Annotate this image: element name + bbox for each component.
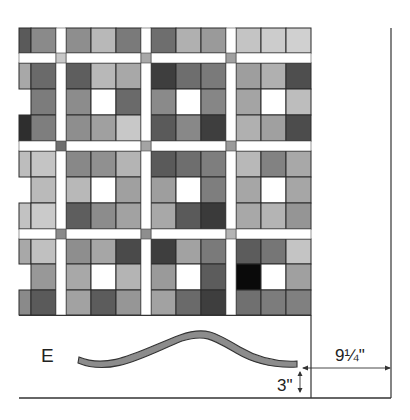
quilt-patch: [66, 203, 91, 229]
quilt-patch: [176, 115, 201, 141]
quilt-patch: [261, 177, 286, 203]
quilt-patch: [66, 63, 91, 89]
quilt-patch: [91, 203, 116, 229]
height-dimension-label: 3": [277, 376, 293, 395]
quilt-patch: [19, 290, 31, 315]
quilt-patch: [116, 28, 141, 53]
quilt-patch: [91, 28, 116, 53]
width-dimension-label: 9¼": [335, 346, 365, 365]
quilt-patch: [261, 151, 286, 177]
quilt-patch: [236, 239, 261, 264]
quilt-patch: [31, 177, 56, 203]
quilt-blocks: [19, 28, 311, 315]
cornerstone: [141, 141, 151, 151]
quilt-patch: [261, 89, 286, 115]
quilt-patch: [176, 264, 201, 290]
quilt-patch: [116, 264, 141, 290]
cornerstone: [226, 141, 236, 151]
quilt-patch: [261, 290, 286, 315]
quilt-patch: [236, 151, 261, 177]
quilt-patch: [261, 203, 286, 229]
quilt-patch: [31, 264, 56, 290]
quilt-patch: [261, 264, 286, 290]
quilt-patch: [151, 63, 176, 89]
quilt-patch: [66, 28, 91, 53]
quilt-patch: [116, 177, 141, 203]
quilt-patch: [151, 151, 176, 177]
quilt-patch: [91, 290, 116, 315]
quilt-patch: [31, 28, 56, 53]
quilt-patch: [201, 203, 226, 229]
quilt-patch: [236, 28, 261, 53]
quilt-patch: [91, 239, 116, 264]
wave-vine-shape: [78, 331, 297, 368]
quilt-patch: [31, 203, 56, 229]
quilt-patch: [31, 290, 56, 315]
cornerstone: [141, 229, 151, 239]
piece-label: E: [41, 345, 54, 366]
quilt-patch: [31, 239, 56, 264]
quilt-patch: [176, 177, 201, 203]
quilt-patch: [286, 203, 311, 229]
cornerstone: [226, 53, 236, 63]
quilt-patch: [176, 89, 201, 115]
quilt-patch: [201, 63, 226, 89]
quilt-patch: [66, 264, 91, 290]
quilt-patch: [201, 28, 226, 53]
quilt-patch: [236, 63, 261, 89]
quilt-patch: [66, 290, 91, 315]
quilt-patch: [91, 115, 116, 141]
quilt-patch: [286, 28, 311, 53]
quilt-patch: [66, 177, 91, 203]
quilt-patch: [176, 203, 201, 229]
quilt-patch: [176, 151, 201, 177]
quilt-patch: [91, 89, 116, 115]
quilt-patch: [116, 203, 141, 229]
quilt-patch: [236, 115, 261, 141]
cornerstone: [141, 53, 151, 63]
quilt-patch: [286, 115, 311, 141]
quilt-patch: [151, 290, 176, 315]
quilt-patch: [201, 151, 226, 177]
quilt-patch: [176, 63, 201, 89]
quilt-patch: [19, 28, 31, 53]
width-dimension-arrow: [302, 366, 391, 371]
quilt-patch: [286, 290, 311, 315]
quilt-patch: [261, 239, 286, 264]
quilt-patch: [151, 115, 176, 141]
quilt-patch: [151, 177, 176, 203]
quilt-patch: [66, 115, 91, 141]
sashing-strip: [141, 28, 151, 315]
quilt-patch: [116, 151, 141, 177]
quilt-patch: [91, 177, 116, 203]
quilt-patch: [176, 290, 201, 315]
quilt-patch: [236, 177, 261, 203]
quilt-diagram: E 9¼" 3": [0, 0, 410, 420]
quilt-patch: [116, 290, 141, 315]
quilt-patch: [116, 89, 141, 115]
quilt-patch: [31, 115, 56, 141]
quilt-patch: [286, 177, 311, 203]
quilt-patch: [91, 151, 116, 177]
quilt-patch: [151, 264, 176, 290]
quilt-patch: [201, 89, 226, 115]
cornerstone: [56, 229, 66, 239]
quilt-patch: [201, 239, 226, 264]
quilt-patch: [91, 63, 116, 89]
quilt-patch: [261, 28, 286, 53]
quilt-patch: [116, 63, 141, 89]
quilt-patch: [116, 115, 141, 141]
quilt-patch: [286, 63, 311, 89]
quilt-patch: [116, 239, 141, 264]
quilt-patch: [31, 89, 56, 115]
quilt-patch: [236, 264, 261, 290]
quilt-patch: [286, 151, 311, 177]
quilt-patch: [151, 89, 176, 115]
quilt-patch: [201, 177, 226, 203]
quilt-patch: [91, 264, 116, 290]
sashing-strip: [226, 28, 236, 315]
quilt-patch: [286, 89, 311, 115]
cornerstone: [56, 53, 66, 63]
quilt-patch: [66, 239, 91, 264]
quilt-patch: [236, 89, 261, 115]
